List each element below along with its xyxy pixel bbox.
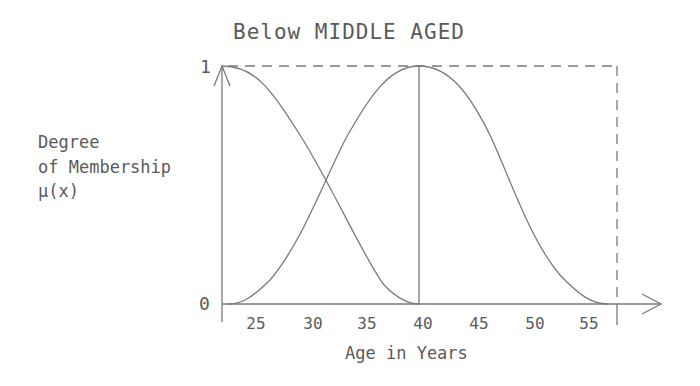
curve-below-middle-aged xyxy=(222,66,419,304)
curve-middle-aged-falling xyxy=(419,66,608,304)
curve-middle-aged-rising xyxy=(228,66,419,304)
membership-plot xyxy=(0,0,700,386)
